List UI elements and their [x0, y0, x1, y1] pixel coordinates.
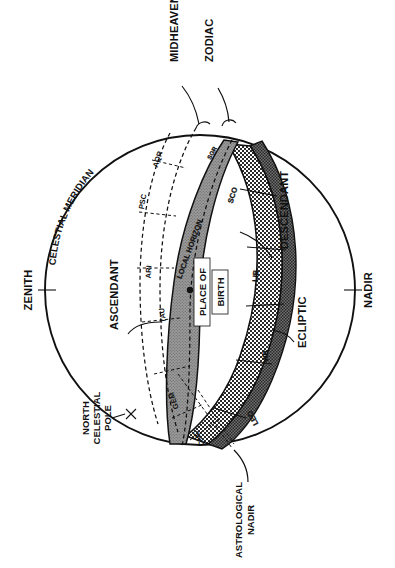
label-zodiac: ZODIAC — [203, 19, 215, 62]
celestial-sphere-figure: ZENITH NADIR CELESTIAL MERIDIAN NORTH CE… — [0, 0, 395, 568]
descendant-text: DESCENDANT — [278, 171, 290, 249]
tau-text: TAU — [157, 307, 168, 323]
ncp-line2: CELESTIAL — [91, 391, 102, 444]
aqr-text: AQR — [151, 149, 165, 168]
zodiac-label-lib: LIB — [251, 269, 261, 282]
astrological-nadir-line2: NADIR — [245, 505, 256, 535]
zenith-text: ZENITH — [22, 270, 34, 311]
midheaven-text: MIDHEAVEN — [168, 0, 180, 62]
label-zenith: ZENITH — [22, 270, 34, 311]
ecliptic-text: ECLIPTIC — [296, 296, 308, 348]
north-celestial-pole-marker — [126, 409, 136, 419]
place-of-birth-dot — [187, 287, 193, 293]
midheaven-top-markers — [196, 120, 236, 128]
label-ascendant: ASCENDANT — [108, 259, 120, 330]
lib-text: LIB — [251, 269, 261, 282]
celestial-meridian-text: CELESTIAL MERIDIAN — [46, 167, 95, 266]
label-celestial-meridian: CELESTIAL MERIDIAN — [46, 167, 95, 266]
leader-north-celestial-pole — [112, 414, 125, 418]
label-astrological-nadir: ASTROLOGICAL NADIR — [233, 482, 256, 558]
astrological-nadir-line1: ASTROLOGICAL — [233, 482, 244, 558]
zodiac-label-vir: VIR — [260, 349, 270, 363]
zodiac-label-ari: ARI — [144, 265, 153, 278]
zodiac-label-sco: SCO — [226, 186, 240, 204]
place-of-birth-line2: BIRTH — [215, 277, 226, 306]
place-of-birth-line1: PLACE OF — [197, 268, 208, 316]
leader-midheaven — [182, 86, 199, 124]
leader-zodiac — [218, 88, 229, 122]
ascendant-text: ASCENDANT — [108, 259, 120, 330]
ncp-line1: NORTH — [80, 401, 91, 435]
sco-text: SCO — [226, 186, 240, 204]
zodiac-label-tau: TAU — [157, 307, 168, 323]
label-place-of-birth: PLACE OF BIRTH — [194, 258, 228, 326]
vir-text: VIR — [260, 349, 270, 363]
zodiac-label-aqr: AQR — [151, 149, 165, 168]
label-midheaven: MIDHEAVEN — [168, 0, 180, 62]
label-ecliptic: ECLIPTIC — [296, 296, 308, 348]
leader-astrological-nadir — [234, 450, 248, 482]
ari-text: ARI — [144, 265, 153, 278]
label-nadir: NADIR — [362, 272, 374, 308]
nadir-text: NADIR — [362, 272, 374, 308]
label-descendant: DESCENDANT — [278, 171, 290, 249]
label-north-celestial-pole: NORTH CELESTIAL POLE — [80, 391, 113, 444]
leader-ascendant — [128, 322, 160, 334]
ncp-line3: POLE — [102, 405, 113, 431]
celestial-sphere-diagram: ZENITH NADIR CELESTIAL MERIDIAN NORTH CE… — [0, 0, 395, 568]
zodiac-text: ZODIAC — [203, 19, 215, 62]
